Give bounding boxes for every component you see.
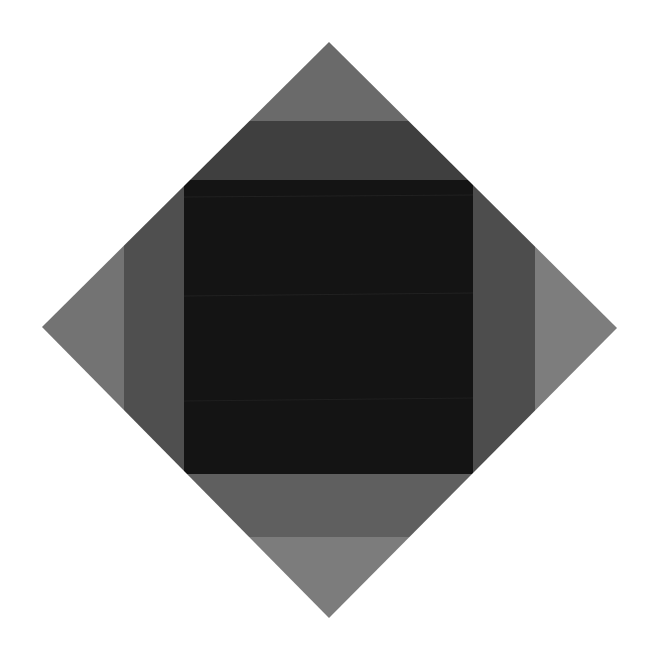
outer-top-region — [124, 42, 535, 121]
geometric-artwork — [0, 0, 653, 664]
outer-bottom-region — [124, 537, 535, 618]
diamond-shape — [42, 42, 617, 618]
band-left-region — [124, 121, 184, 537]
band-right-region — [473, 121, 535, 537]
center-square — [184, 180, 473, 474]
artwork-canvas — [0, 0, 653, 664]
band-bottom-region — [184, 474, 473, 537]
outer-left-region — [42, 42, 124, 618]
outer-right-region — [535, 42, 617, 618]
band-top-region — [184, 121, 473, 180]
